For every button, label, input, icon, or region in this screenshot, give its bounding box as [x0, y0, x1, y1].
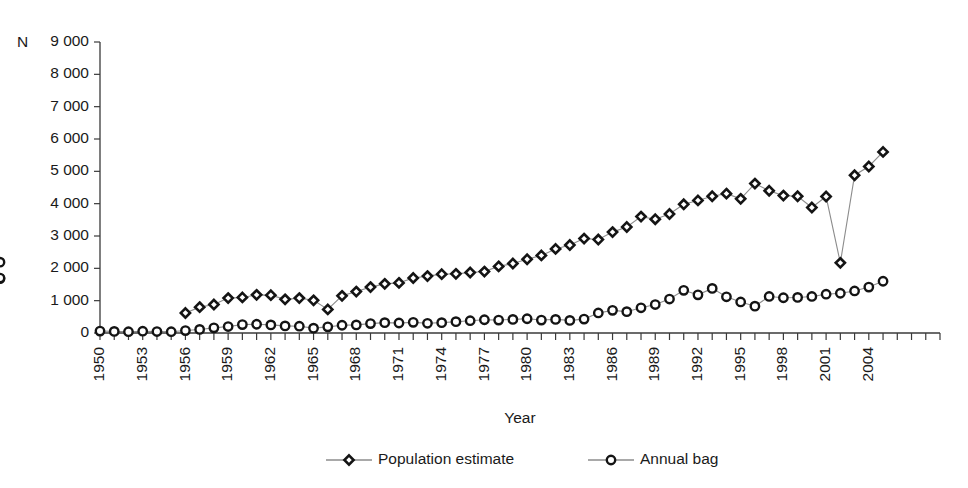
data-point [437, 318, 445, 326]
data-point [579, 234, 588, 243]
data-point [565, 240, 574, 249]
x-tick-label: 1971 [389, 347, 406, 381]
y-tick-label: 6 000 [50, 129, 89, 146]
data-point [793, 293, 801, 301]
data-point [779, 294, 787, 302]
data-point [280, 295, 289, 304]
data-point [452, 317, 460, 325]
data-point [480, 267, 489, 276]
data-point [295, 293, 304, 302]
data-point [509, 315, 517, 323]
data-point [608, 306, 616, 314]
legend-item-population-estimate[interactable]: Population estimate [326, 450, 514, 467]
y-axis-tick-labels: 01 0002 0003 0004 0005 0006 0007 0008 00… [50, 32, 89, 340]
x-tick-label: 1959 [218, 347, 235, 381]
data-point [551, 244, 560, 253]
data-point [523, 255, 532, 264]
x-tick-label: 2004 [859, 347, 876, 382]
data-point [0, 274, 4, 282]
data-point [765, 292, 773, 300]
data-point [808, 292, 816, 300]
data-point [850, 287, 858, 295]
data-point [0, 258, 4, 266]
data-point [309, 324, 317, 332]
data-point [594, 235, 603, 244]
x-axis-title: Year [504, 409, 535, 426]
data-point [224, 293, 233, 302]
y-tick-label: 7 000 [50, 97, 89, 114]
data-point [295, 322, 303, 330]
data-point [139, 327, 147, 335]
data-point [210, 324, 218, 332]
data-point [822, 290, 830, 298]
data-point [181, 326, 189, 334]
data-point [708, 284, 716, 292]
data-point [423, 271, 432, 280]
x-tick-label: 1968 [346, 347, 363, 381]
data-point [352, 287, 361, 296]
x-tick-label: 1989 [645, 347, 662, 381]
x-tick-label: 1977 [475, 347, 492, 381]
data-point [594, 309, 602, 317]
data-point [209, 300, 218, 309]
data-point [736, 298, 744, 306]
x-tick-label: 2001 [816, 347, 833, 381]
series-path [185, 152, 883, 313]
data-point [252, 290, 261, 299]
data-point [381, 318, 389, 326]
data-point [665, 209, 674, 218]
y-tick-label: 0 [80, 323, 89, 340]
data-point [679, 200, 688, 209]
data-point [865, 283, 873, 291]
data-point [366, 282, 375, 291]
data-point [124, 328, 132, 336]
data-point [765, 186, 774, 195]
data-point [879, 277, 887, 285]
data-point [836, 289, 844, 297]
data-point [380, 279, 389, 288]
line-chart: 01 0002 0003 0004 0005 0006 0007 0008 00… [0, 0, 968, 488]
data-point [195, 303, 204, 312]
data-point [608, 228, 617, 237]
data-point [423, 319, 431, 327]
data-point [309, 296, 318, 305]
data-point [338, 321, 346, 329]
data-point [836, 258, 845, 267]
data-point [266, 291, 275, 300]
data-point [580, 315, 588, 323]
data-point [537, 316, 545, 324]
x-tick-label: 1950 [90, 347, 107, 382]
data-point [680, 286, 688, 294]
data-point [195, 325, 203, 333]
data-point [466, 268, 475, 277]
data-point [537, 251, 546, 260]
data-point [238, 293, 247, 302]
data-point [153, 327, 161, 335]
y-tick-label: 3 000 [50, 226, 89, 243]
data-point [779, 191, 788, 200]
data-point [252, 320, 260, 328]
data-point [637, 304, 645, 312]
data-point [494, 316, 502, 324]
data-point [651, 300, 659, 308]
legend-item-annual-bag[interactable]: Annual bag [588, 450, 718, 467]
chart-legend: Population estimateAnnual bag [326, 450, 718, 467]
data-point [508, 259, 517, 268]
x-tick-label: 1965 [304, 347, 321, 381]
data-point [494, 262, 503, 271]
y-axis-title: N [17, 33, 28, 50]
x-tick-label: 1986 [603, 347, 620, 381]
x-axis-ticks [100, 333, 940, 340]
data-point [708, 192, 717, 201]
data-point [324, 323, 332, 331]
data-point [636, 212, 645, 221]
y-tick-label: 1 000 [50, 291, 89, 308]
legend-diamond-marker-icon [344, 455, 353, 464]
data-point [693, 196, 702, 205]
x-tick-label: 1992 [688, 347, 705, 381]
data-point [409, 318, 417, 326]
x-tick-label: 1956 [176, 347, 193, 381]
y-tick-label: 5 000 [50, 161, 89, 178]
data-point [566, 316, 574, 324]
data-point [651, 215, 660, 224]
